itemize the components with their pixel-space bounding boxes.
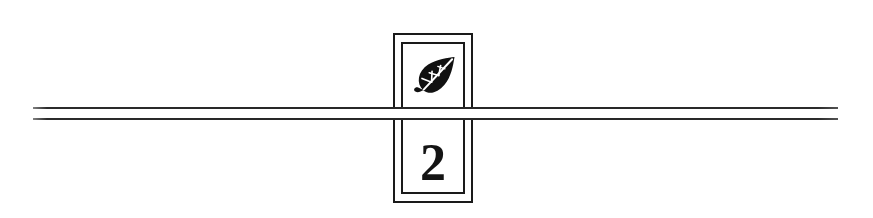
- plaque-number-cell: 2: [395, 127, 471, 201]
- emblem-canvas: 2: [0, 0, 873, 218]
- plaque-number: 2: [420, 137, 446, 189]
- leaf-icon: [409, 55, 457, 99]
- rule-gap-mask: [33, 109, 838, 118]
- horizontal-rule-bottom: [33, 118, 838, 120]
- horizontal-rule-top: [33, 107, 838, 109]
